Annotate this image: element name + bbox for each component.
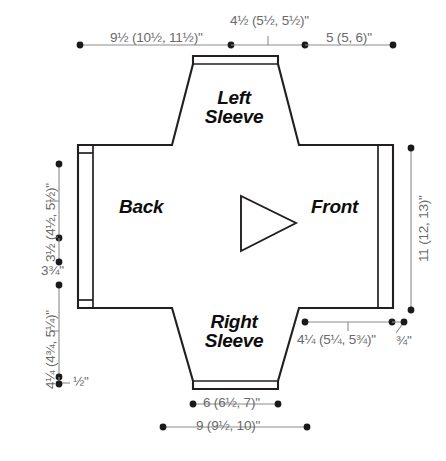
- piece-label-left-sleeve-line2: Sleeve: [196, 107, 272, 126]
- dim-label-top-center-span: 4½ (5½, 5½)": [230, 14, 309, 28]
- schematic-svg: [0, 0, 446, 461]
- dim-label-left-lower-span: 4¼ (4¾, 5¼)": [44, 310, 58, 389]
- dim-label-top-right-span: 5 (5, 6)": [326, 31, 372, 45]
- dim-bottom-right-sleeve-span-line: [302, 319, 396, 331]
- dim-label-bottom-right-small: ¾": [396, 334, 412, 348]
- dim-label-top-left-span: 9½ (10½, 11½)": [110, 31, 203, 45]
- dim-label-right-vertical-span: 11 (12, 13)": [417, 195, 431, 262]
- dim-right-vertical-span-line: [408, 145, 415, 314]
- piece-label-front: Front: [311, 197, 358, 216]
- dim-label-bottom-body-span: 9 (9½, 10)": [196, 419, 260, 433]
- piece-label-right-sleeve-line1: Right: [196, 312, 272, 331]
- piece-label-left-sleeve-line1: Left: [196, 88, 272, 107]
- dim-label-left-mid-small: 3¾": [41, 264, 64, 278]
- dim-top-center-span-line: [231, 36, 308, 48]
- garment-schematic: Left Sleeve Right Sleeve Back Front 9½ (…: [0, 0, 446, 461]
- piece-label-right-sleeve: Right Sleeve: [196, 312, 272, 351]
- dim-label-left-upper-span: 3½ (4½, 5½)": [44, 183, 58, 262]
- dim-label-bottom-right-sleeve-span: 4¼ (5¼, 5¾)": [297, 333, 376, 347]
- dim-label-left-bottom-small: ½": [73, 375, 89, 389]
- piece-label-left-sleeve: Left Sleeve: [196, 88, 272, 127]
- dim-label-bottom-cuff-span: 6 (6½, 7)": [203, 396, 260, 410]
- piece-label-back: Back: [119, 197, 163, 216]
- piece-label-right-sleeve-line2: Sleeve: [196, 331, 272, 350]
